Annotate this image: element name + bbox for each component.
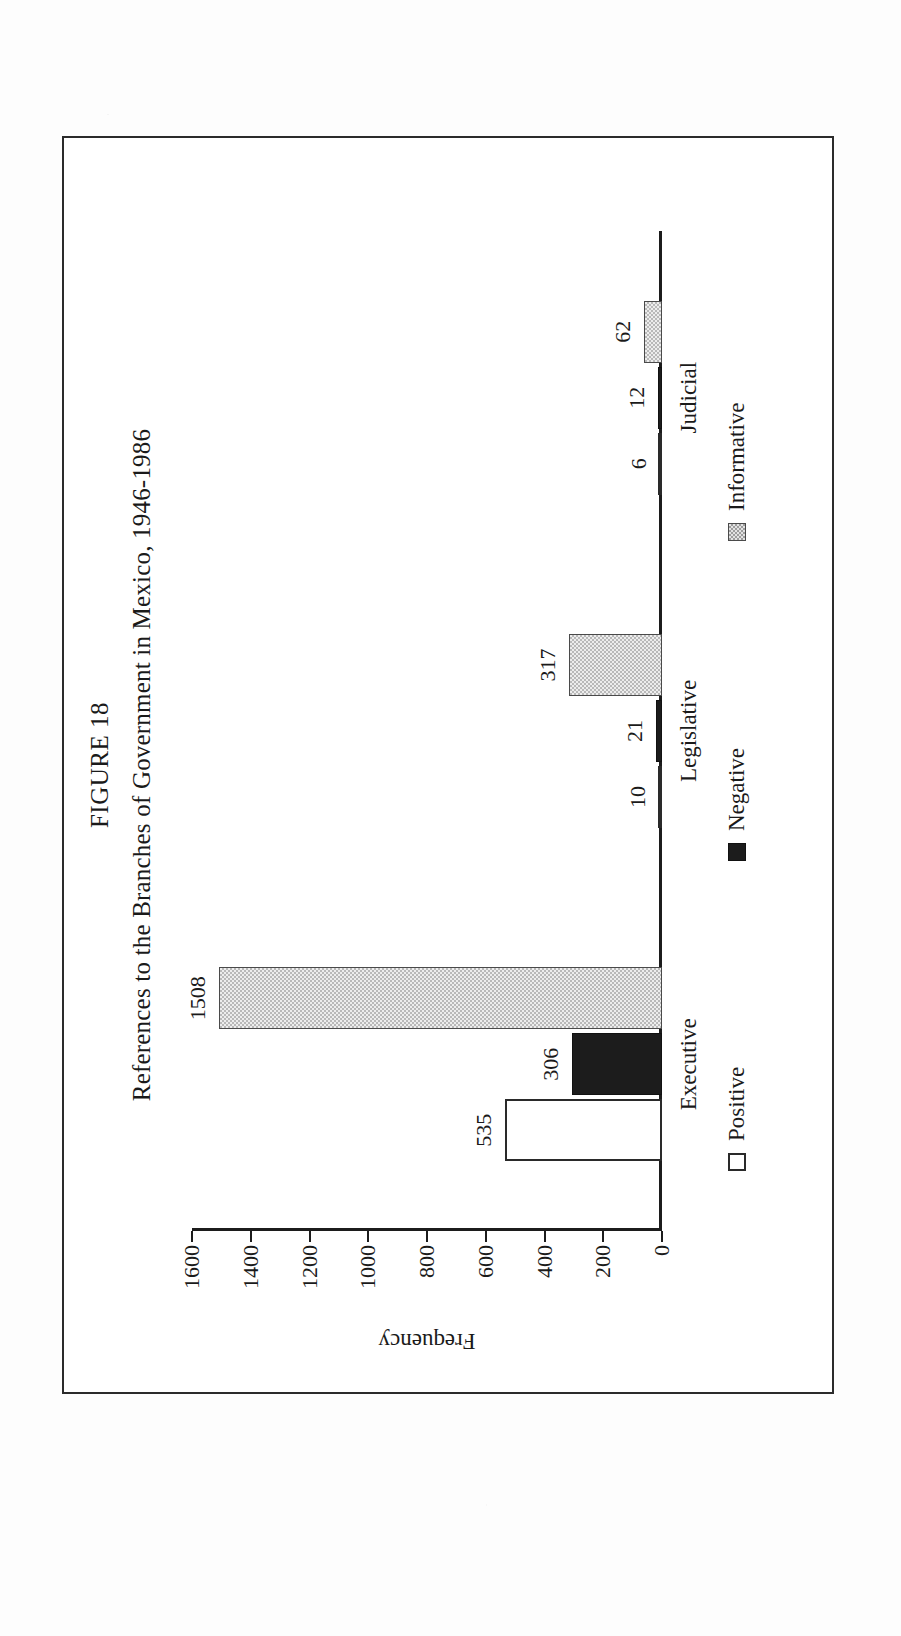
bar-judicial-positive [658,433,662,495]
figure-number: FIGURE 18 [86,149,114,1381]
legend-label: Informative [724,402,750,511]
bar-value-label: 535 [471,1114,497,1147]
legend-item-negative: Negative [724,748,750,861]
legend-swatch-informative-icon [728,523,746,541]
bar-executive-negative [572,1033,662,1095]
category-label-executive: Executive [676,1018,702,1110]
y-axis-title: Frequency [378,1328,475,1354]
bar-value-label: 12 [624,387,650,409]
bar-value-label: 21 [622,720,648,742]
bar-value-label: 1508 [185,976,211,1020]
plot-area: 020040060080010001200140016005353061508E… [192,231,662,1231]
y-axis-tick [250,1231,252,1242]
y-axis-tick-label: 1200 [297,1245,323,1289]
y-axis-tick [661,1231,663,1242]
y-axis-tick-label: 1000 [355,1245,381,1289]
bar-judicial-negative [658,367,662,429]
chart-legend: PositiveNegativeInformative [724,231,784,1231]
bar-value-label: 10 [625,786,651,808]
bar-legislative-negative [656,700,662,762]
y-axis-tick [544,1231,546,1242]
legend-label: Negative [724,748,750,831]
figure-title: References to the Branches of Government… [128,149,156,1381]
figure-canvas: FIGURE 18 References to the Branches of … [74,149,822,1381]
bar-judicial-informative [644,301,662,363]
y-axis-tick-label: 1400 [238,1245,264,1289]
category-label-legislative: Legislative [676,680,702,782]
bar-legislative-informative [569,634,662,696]
y-axis-tick-label: 0 [649,1245,675,1256]
y-axis-tick-label: 400 [532,1245,558,1278]
y-axis-tick [485,1231,487,1242]
bar-executive-positive [505,1099,662,1161]
legend-swatch-negative-icon [728,843,746,861]
legend-item-positive: Positive [724,1067,750,1171]
bar-value-label: 317 [535,649,561,682]
bar-value-label: 6 [626,458,652,469]
legend-swatch-positive-icon [728,1153,746,1171]
category-label-judicial: Judicial [676,362,702,434]
y-axis-tick [309,1231,311,1242]
rotated-figure-wrapper: FIGURE 18 References to the Branches of … [74,149,822,1381]
y-axis-tick-label: 600 [473,1245,499,1278]
bar-value-label: 62 [610,321,636,343]
y-axis-tick [367,1231,369,1242]
legend-item-informative: Informative [724,402,750,541]
y-axis-tick [426,1231,428,1242]
y-axis-tick [191,1231,193,1242]
y-axis-tick-label: 1600 [179,1245,205,1289]
scanned-page: FIGURE 18 References to the Branches of … [0,0,901,1636]
bar-executive-informative [219,967,662,1029]
legend-label: Positive [724,1067,750,1141]
bar-legislative-positive [658,766,662,828]
figure-frame-border: FIGURE 18 References to the Branches of … [62,136,834,1394]
y-axis-tick-label: 200 [590,1245,616,1278]
y-axis-tick-label: 800 [414,1245,440,1278]
bar-value-label: 306 [538,1048,564,1081]
y-axis-tick [602,1231,604,1242]
